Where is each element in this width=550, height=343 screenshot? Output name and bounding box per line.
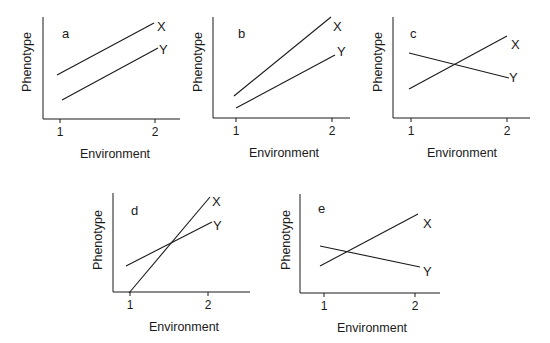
tick-label: 2 [329, 124, 336, 138]
tick-label: 1 [233, 124, 240, 138]
panel-label: d [131, 203, 138, 218]
series-x-label: X [212, 194, 221, 209]
series-x-label: X [423, 216, 432, 231]
series-y-label: Y [423, 264, 432, 279]
y-axis-label: Phenotype [91, 210, 105, 270]
series-x-line [234, 17, 331, 96]
tick-label: 1 [57, 125, 64, 139]
panel-b: 1 2 Environment Phenotype b X Y [191, 17, 350, 160]
series-x-label: X [157, 19, 166, 34]
series-y-label: Y [337, 44, 346, 59]
x-axis-label: Environment [80, 147, 151, 161]
tick-label: 1 [408, 124, 415, 138]
tick-label: 2 [152, 125, 159, 139]
x-axis-label: Environment [249, 146, 320, 160]
tick-label: 1 [321, 299, 328, 313]
series-x-line [409, 36, 507, 89]
tick-label: 1 [127, 298, 134, 312]
series-y-line [320, 246, 420, 267]
x-axis-label: Environment [337, 321, 408, 335]
series-x-label: X [511, 37, 520, 52]
panel-e: 1 2 Environment Phenotype e X Y [279, 194, 440, 335]
y-axis-label: Phenotype [371, 32, 385, 92]
series-y-label: Y [213, 218, 222, 233]
tick-label: 2 [412, 299, 419, 313]
panel-c: 1 2 Environment Phenotype c X Y [371, 17, 530, 160]
series-y-line [236, 55, 335, 108]
series-y-line [126, 222, 212, 266]
tick-label: 2 [205, 298, 212, 312]
y-axis-label: Phenotype [20, 32, 34, 92]
series-x-line [129, 197, 210, 293]
panel-label: e [318, 201, 325, 216]
series-y-line [409, 53, 509, 78]
panel-label: b [238, 26, 245, 41]
series-y-line [62, 48, 158, 100]
panel-a: 1 2 Environment Phenotype a X Y [20, 17, 180, 161]
series-x-line [320, 214, 418, 266]
series-x-line [57, 23, 154, 75]
x-axis-label: Environment [427, 146, 498, 160]
x-axis-label: Environment [149, 320, 220, 334]
series-y-label: Y [509, 70, 518, 85]
series-y-label: Y [159, 42, 168, 57]
tick-label: 2 [504, 124, 511, 138]
panel-label: c [410, 26, 417, 41]
figure: 1 2 Environment Phenotype a X Y 1 2 Envi… [0, 0, 550, 343]
panel-label: a [62, 26, 70, 41]
y-axis-label: Phenotype [191, 32, 205, 92]
series-x-label: X [333, 19, 342, 34]
y-axis-label: Phenotype [279, 210, 293, 270]
panel-d: 1 2 Environment Phenotype d X Y [91, 193, 250, 334]
